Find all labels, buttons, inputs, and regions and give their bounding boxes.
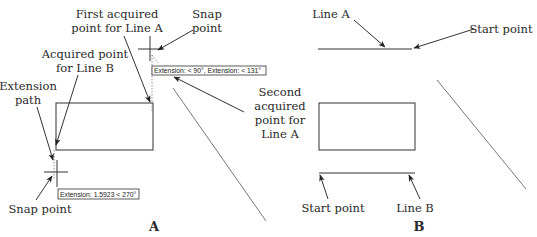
- label-second-2: acquired: [254, 99, 306, 113]
- label-line-b: Line B: [396, 201, 434, 215]
- arrow-first-acquired: [124, 36, 150, 102]
- diagonal-line-b: [437, 80, 526, 189]
- rectangle-a: [56, 103, 153, 150]
- tracking-path-angle: [152, 55, 158, 63]
- arrow-line-b: [409, 175, 420, 199]
- label-acquired-b-2: for Line B: [56, 61, 114, 75]
- panel-a: Extension: < 90°, Extension: < 131° Exte…: [0, 7, 306, 234]
- arrow-extension: [37, 107, 53, 160]
- tooltip-text-bottom: Extension: 1.5923 < 270°: [60, 191, 137, 198]
- tooltip-text-top: Extension: < 90°, Extension: < 131°: [154, 67, 261, 74]
- rectangle-b: [319, 103, 415, 150]
- label-first-acquired-2: point for Line A: [71, 21, 163, 35]
- snap-crosshair-top: [138, 36, 162, 61]
- label-second-1: Second: [259, 85, 302, 99]
- arrow-snap-top: [158, 30, 193, 50]
- label-snap-bottom: Snap point: [8, 202, 72, 216]
- diagram-canvas: Extension: < 90°, Extension: < 131° Exte…: [0, 0, 537, 237]
- arrow-snap-bottom: [36, 176, 52, 200]
- label-snap-top-2: point: [192, 21, 222, 35]
- line-a-diagonal: [173, 88, 266, 221]
- arrow-start-top: [414, 29, 474, 48]
- arrow-acquired-b: [56, 75, 78, 145]
- arrow-second: [174, 77, 244, 112]
- arrow-line-a: [354, 20, 385, 47]
- label-acquired-b-1: Acquired point: [41, 47, 129, 61]
- label-start-top: Start point: [469, 22, 532, 36]
- label-start-bottom: Start point: [301, 201, 364, 215]
- label-snap-top-1: Snap: [192, 7, 222, 21]
- caption-b: B: [414, 219, 425, 234]
- panel-b: Line A Start point Start point Line B B: [301, 7, 532, 234]
- arrow-start-bottom: [320, 175, 328, 199]
- caption-a: A: [148, 219, 160, 234]
- label-second-4: Line A: [261, 127, 299, 141]
- label-extension-2: path: [15, 93, 42, 107]
- tooltip-extension-top: Extension: < 90°, Extension: < 131°: [152, 66, 266, 75]
- label-line-a: Line A: [312, 7, 350, 21]
- label-extension-1: Extension: [0, 79, 57, 93]
- label-second-3: point for: [255, 113, 306, 127]
- tooltip-extension-bottom: Extension: 1.5923 < 270°: [58, 189, 139, 199]
- label-first-acquired-1: First acquired: [76, 7, 159, 21]
